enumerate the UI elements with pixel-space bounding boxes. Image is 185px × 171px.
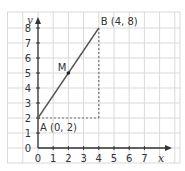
points: A (0, 2)B (4, 8)M [40, 16, 138, 133]
coordinate-plane: xy 01234567012345678 A (0, 2)B (4, 8)M [0, 0, 185, 171]
y-tick-label: 7 [25, 38, 31, 49]
point-m-marker [67, 71, 71, 75]
y-tick-label: 4 [25, 83, 31, 94]
y-tick-label: 2 [25, 113, 31, 124]
x-tick-label: 6 [126, 153, 132, 164]
y-tick-label: 3 [25, 98, 31, 109]
y-tick-label: 6 [25, 53, 31, 64]
x-tick-label: 3 [80, 153, 86, 164]
x-tick-label: 0 [35, 153, 41, 164]
x-tick-label: 2 [65, 153, 71, 164]
x-tick-label: 7 [141, 153, 147, 164]
x-axis-arrow-icon [165, 145, 172, 151]
y-tick-label: 0 [25, 143, 31, 154]
y-tick-label: 1 [25, 128, 31, 139]
x-tick-label: 1 [50, 153, 56, 164]
y-tick-label: 8 [25, 23, 31, 34]
x-tick-label: 5 [111, 153, 117, 164]
point-label-a: A (0, 2) [40, 122, 77, 133]
point-label-m: M [58, 62, 67, 73]
x-axis-label: x [158, 152, 165, 165]
y-tick-label: 5 [25, 68, 31, 79]
point-label-b: B (4, 8) [101, 16, 138, 27]
y-axis-arrow-icon [35, 17, 41, 24]
x-tick-label: 4 [96, 153, 102, 164]
